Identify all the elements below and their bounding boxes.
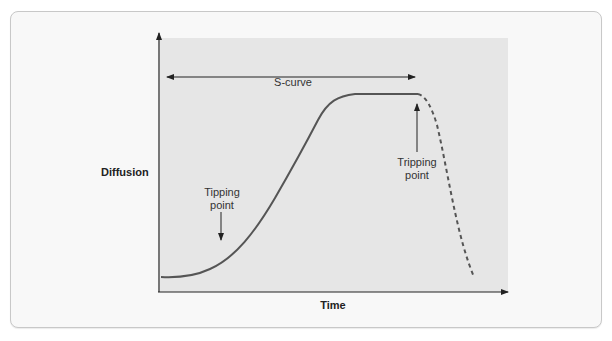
x-axis-label: Time bbox=[320, 299, 345, 311]
s-curve-label: S-curve bbox=[274, 76, 312, 88]
tripping-point-label-line1: Tripping bbox=[397, 156, 436, 168]
tipping-point-label-line1: Tipping bbox=[204, 186, 240, 198]
s-curve-diagram: Diffusion Time S-curve Tipping point Tri… bbox=[0, 0, 612, 341]
y-axis-label: Diffusion bbox=[101, 166, 149, 178]
tripping-point-label-line2: point bbox=[405, 169, 429, 181]
plot-area bbox=[160, 38, 508, 292]
tipping-point-label-line2: point bbox=[210, 199, 234, 211]
